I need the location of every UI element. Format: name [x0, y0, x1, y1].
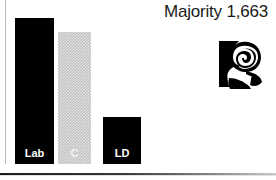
bar-ld[interactable]: LD	[103, 117, 141, 164]
footer-divider-soft	[0, 175, 276, 176]
election-result-graphic: Lab C LD Majority 1,663	[0, 0, 276, 180]
labour-rose-icon	[216, 38, 264, 90]
bar-label-ld: LD	[103, 147, 141, 159]
majority-headline: Majority 1,663	[164, 2, 268, 22]
bar-lab[interactable]: Lab	[15, 18, 54, 164]
bar-c[interactable]: C	[58, 32, 91, 164]
bar-label-c: C	[58, 147, 91, 159]
bar-chart-plot-area: Lab C LD	[0, 0, 160, 164]
bar-label-lab: Lab	[15, 147, 54, 159]
